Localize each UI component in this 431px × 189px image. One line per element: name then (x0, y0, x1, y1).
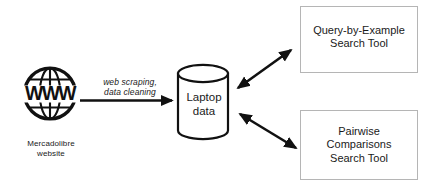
datastore-cylinder (178, 65, 228, 139)
www-globe-icon: WWW (24, 67, 77, 120)
svg-text:WWW: WWW (25, 82, 77, 104)
tool-bottom-box[interactable] (301, 111, 418, 180)
diagram-canvas: WWW Mercadolibre website web scraping, d… (0, 0, 431, 189)
www-wordmark: WWW (25, 82, 77, 104)
tool-top-box[interactable] (301, 7, 418, 73)
edge-store-tool-bottom-arrow (240, 114, 296, 148)
diagram-graphics: WWW (0, 0, 431, 189)
edge-store-tool-top-arrow (238, 50, 291, 88)
